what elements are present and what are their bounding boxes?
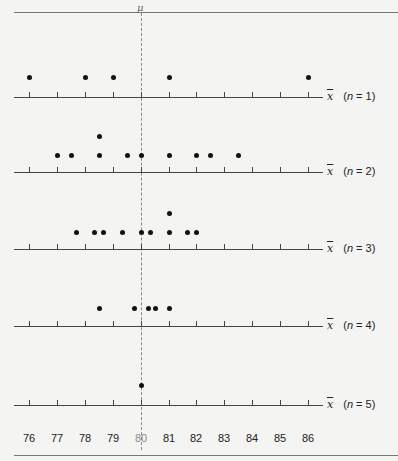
axis-tick [141,321,142,326]
axis-tick [29,400,30,405]
axis-tick [141,92,142,97]
axis-tick [141,244,142,249]
data-point [167,75,172,80]
tick-label: 76 [17,432,41,444]
data-point [111,75,116,80]
data-point [146,306,151,311]
axis-tick [280,92,281,97]
axis-tick [308,400,309,405]
data-point [69,153,74,158]
tick-label: 81 [157,432,181,444]
data-point [236,153,241,158]
axis-tick [85,244,86,249]
axis-tick [29,167,30,172]
axis-tick [85,400,86,405]
axis-tick [224,321,225,326]
data-point [194,230,199,235]
axis-tick [141,167,142,172]
data-point [139,153,144,158]
bottom-rule [14,455,398,456]
axis-tick [57,321,58,326]
data-point [55,153,60,158]
axis-tick [280,167,281,172]
axis-tick [308,167,309,172]
mean-label: μ [137,2,144,13]
data-point [132,306,137,311]
axis-tick [224,244,225,249]
xbar-symbol: x [327,165,333,178]
row-label: x(n = 2) [327,165,375,178]
axis-tick [196,400,197,405]
data-point [167,211,172,216]
axis-tick [224,92,225,97]
data-point [97,306,102,311]
axis-tick [57,167,58,172]
axis-tick [252,244,253,249]
data-point [208,153,213,158]
data-point [153,306,158,311]
data-point [97,134,102,139]
axis-tick [169,321,170,326]
axis-tick [280,244,281,249]
data-point [83,75,88,80]
data-point [194,153,199,158]
x-axis-line [14,172,323,173]
axis-tick [169,400,170,405]
axis-tick [169,244,170,249]
axis-tick [113,167,114,172]
axis-tick [57,400,58,405]
tick-label: 80 [129,432,153,444]
data-point [27,75,32,80]
axis-tick [252,167,253,172]
row-label: x(n = 3) [327,242,375,255]
data-point [101,230,106,235]
axis-tick [113,92,114,97]
x-axis-line [14,326,323,327]
xbar-symbol: x [327,90,333,103]
row-label: x(n = 1) [327,90,375,103]
axis-tick [85,167,86,172]
data-point [167,230,172,235]
axis-tick [196,167,197,172]
x-axis-line [14,249,323,250]
x-axis-line [14,97,323,98]
axis-tick [113,244,114,249]
data-point [306,75,311,80]
axis-tick [29,244,30,249]
axis-tick [57,244,58,249]
tick-label: 79 [101,432,125,444]
axis-tick [169,92,170,97]
axis-tick [113,400,114,405]
axis-tick [196,244,197,249]
data-point [139,383,144,388]
axis-tick [29,92,30,97]
axis-tick [252,321,253,326]
tick-label: 85 [268,432,292,444]
data-point [185,230,190,235]
data-point [97,153,102,158]
axis-tick [113,321,114,326]
data-point [148,230,153,235]
data-point [139,230,144,235]
tick-label: 86 [296,432,320,444]
axis-tick [280,400,281,405]
axis-tick [252,92,253,97]
tick-label: 77 [45,432,69,444]
data-point [74,230,79,235]
tick-label: 83 [212,432,236,444]
axis-tick [196,92,197,97]
xbar-symbol: x [327,242,333,255]
axis-tick [308,244,309,249]
tick-label: 84 [240,432,264,444]
axis-tick [224,167,225,172]
data-point [92,230,97,235]
data-point [167,153,172,158]
data-point [167,306,172,311]
axis-tick [280,321,281,326]
axis-tick [169,167,170,172]
axis-tick [85,92,86,97]
row-label: x(n = 5) [327,398,375,411]
data-point [125,153,130,158]
axis-tick [196,321,197,326]
data-point [120,230,125,235]
